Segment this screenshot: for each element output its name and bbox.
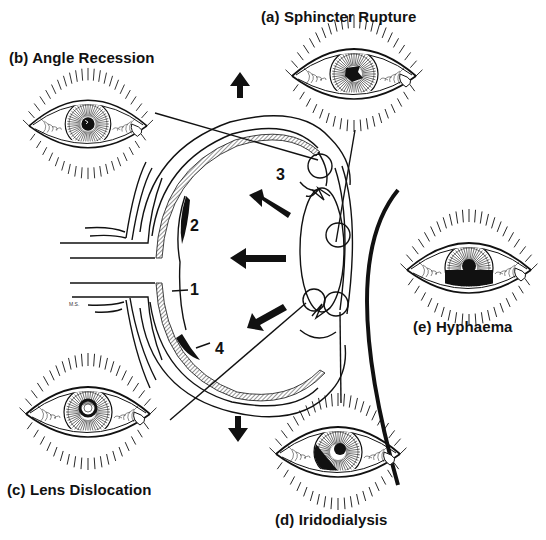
eyelash [116,365,120,375]
eyelash [404,92,409,99]
eyelash [20,408,26,414]
iris [330,50,378,98]
eyelash [286,70,292,76]
eyelash [131,436,135,444]
eyelash [127,376,132,385]
eyelash [326,113,329,123]
eyelash [310,491,313,501]
eyelash [381,476,385,484]
eyelash [138,430,143,437]
iris [65,101,111,147]
eyelash [391,104,395,113]
eyelash [36,141,40,148]
eyelash [435,303,438,312]
eyelash [382,27,386,37]
eyelash [46,90,51,99]
eye-hyphaema-icon [401,209,538,326]
marker-tick-1 [172,290,188,291]
eyelash [372,410,377,420]
eyelash [34,430,39,437]
eyelash [123,153,127,161]
eyelash [401,264,407,270]
eyelash [506,298,510,307]
eyelash [480,211,482,223]
eyelash [293,416,298,425]
eyelash [25,399,31,406]
eyelash [37,383,43,391]
eyelash [388,470,393,477]
eyelash [357,494,359,505]
eyelash [393,38,398,47]
eyelash [120,85,124,94]
eyelash [99,355,101,367]
blood-level [445,270,493,294]
eyelash [360,120,361,132]
eyelash [319,398,322,410]
eyelash [135,141,139,148]
eyelash [29,111,35,118]
eyelash [415,286,420,293]
arrow-down-left-icon [247,304,287,331]
eye-trauma-diagram: (b) Angle Recession (a) Sphincter Ruptur… [0,0,546,540]
eyelash [410,61,416,68]
eyelash [57,80,61,90]
eye-lens-dislocation-icon [20,353,157,470]
eyelash [531,264,537,270]
eye-iridodialysis-icon [270,393,407,510]
eye-angle-recession-icon [23,68,153,179]
eye-sphincter-rupture-icon [286,15,423,132]
eyelash [111,361,114,372]
eyelash [389,430,395,438]
eyelash [94,354,95,367]
eyelash [379,113,382,123]
eyelash [494,307,497,317]
eyelash [512,292,516,300]
arrow-left-icon [230,248,286,269]
eyelash [55,157,58,166]
marker-3: 3 [276,166,285,184]
eyelash [81,167,82,178]
eyelash [388,32,393,42]
marker-4: 4 [215,340,224,358]
eyelash [141,134,146,140]
eyelash [475,210,476,223]
marker-1: 1 [190,281,199,299]
eyelash [324,496,326,507]
eyelash [277,462,282,469]
eyelash [486,214,489,226]
eyelash [129,147,133,155]
eyelash [31,390,37,398]
eyelash [492,217,495,228]
eyelash [54,447,57,456]
eyelash [375,482,379,491]
eyelash [397,98,401,106]
eyelash [331,394,332,407]
eyelash [347,120,348,132]
force-arrows [228,72,291,442]
eyelash [317,494,319,505]
eyelash [125,442,129,451]
eyelash [94,458,95,470]
eyelash [133,383,139,391]
eyelash [60,451,63,461]
eyelash [350,496,352,507]
eyelash [344,498,345,510]
eyelash [300,92,305,99]
arrow-up-left-icon [249,189,291,218]
eyelash [82,69,83,81]
eyelash [431,226,436,236]
artist-signature: M.S. [69,301,79,307]
eyelash [47,442,51,451]
arrow-down-icon [228,416,248,442]
eyelash [320,109,323,118]
label-sphincter-rupture: (a) Sphincter Rupture [261,8,416,25]
eyelash [40,436,44,444]
eyelash [456,211,458,223]
marker-2: 2 [190,217,199,235]
eyelash [56,365,60,375]
eyelash [500,303,503,312]
eyelash [99,70,101,82]
eyelash [113,451,116,461]
eyelash [291,61,297,68]
eyelash [76,70,78,82]
